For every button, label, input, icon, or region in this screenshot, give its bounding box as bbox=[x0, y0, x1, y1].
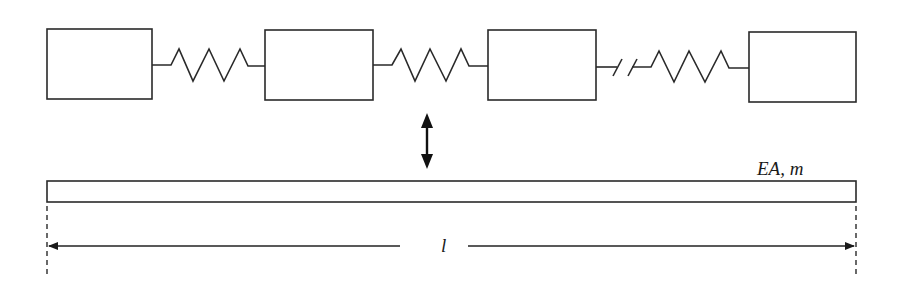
uniform-bar bbox=[47, 181, 856, 202]
mass-3 bbox=[488, 30, 596, 100]
length-label: l bbox=[441, 235, 446, 256]
double-arrow-icon bbox=[421, 113, 433, 169]
lumped-mass-diagram: EA, m l bbox=[0, 0, 898, 295]
spring-3-broken bbox=[596, 51, 749, 82]
spring-1 bbox=[152, 49, 265, 81]
bar-property-label: EA, m bbox=[756, 158, 803, 179]
mass-4 bbox=[749, 32, 856, 102]
mass-1 bbox=[47, 29, 152, 99]
mass-2 bbox=[265, 30, 373, 100]
spring-2 bbox=[373, 49, 488, 81]
